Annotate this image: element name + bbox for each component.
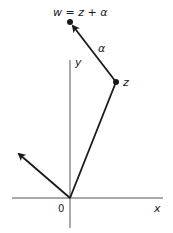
label-w: w = z + α: [53, 6, 108, 19]
vector-alpha-from-origin: [19, 154, 70, 198]
point-w: [67, 19, 73, 25]
label-alpha: α: [98, 42, 106, 55]
vector-alpha: [73, 26, 116, 82]
label-z: z: [122, 76, 129, 89]
vector-z: [70, 82, 116, 198]
label-origin: 0: [58, 203, 64, 214]
label-y-axis: y: [74, 56, 82, 69]
complex-plane-diagram: w = z + α z α y x 0: [0, 0, 173, 233]
point-z: [113, 79, 119, 85]
label-x-axis: x: [153, 202, 161, 215]
